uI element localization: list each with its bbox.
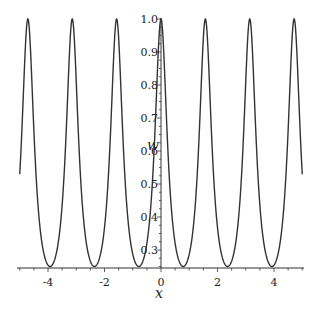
x-tick-label: -4 xyxy=(43,276,54,289)
x-tick-label: 4 xyxy=(271,276,278,289)
y-tick-label: 0.9 xyxy=(141,46,159,59)
y-tick-label: 0.3 xyxy=(141,244,159,257)
y-axis-label: w xyxy=(147,137,159,153)
chart: -4-20240.30.40.50.60.70.80.91.0 x w xyxy=(0,0,317,316)
y-tick-label: 0.8 xyxy=(141,79,159,92)
y-tick-label: 0.5 xyxy=(141,178,159,191)
x-tick-label: -2 xyxy=(99,276,110,289)
y-tick-label: 1.0 xyxy=(141,13,159,26)
x-tick-label: 2 xyxy=(214,276,221,289)
plot-area: -4-20240.30.40.50.60.70.80.91.0 x w xyxy=(0,0,317,316)
x-axis-label: x xyxy=(155,285,163,301)
axes: -4-20240.30.40.50.60.70.80.91.0 xyxy=(17,13,304,289)
